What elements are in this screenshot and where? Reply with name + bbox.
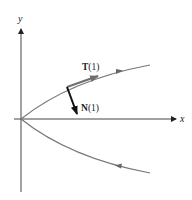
parabola-tangent-normal-diagram: y x T(1) N(1): [0, 0, 192, 200]
y-axis-label: y: [17, 13, 23, 24]
tangent-vector-label: T(1): [82, 62, 99, 73]
normal-vector-label: N(1): [81, 103, 99, 114]
normal-vector-arg: (1): [88, 103, 99, 114]
curve-direction-arrow-lower-icon: [115, 164, 122, 169]
x-axis-label: x: [179, 113, 185, 124]
tangent-vector-arg: (1): [88, 62, 99, 73]
tangent-vector-arrow: [67, 76, 98, 87]
normal-vector-arrow: [67, 87, 77, 114]
